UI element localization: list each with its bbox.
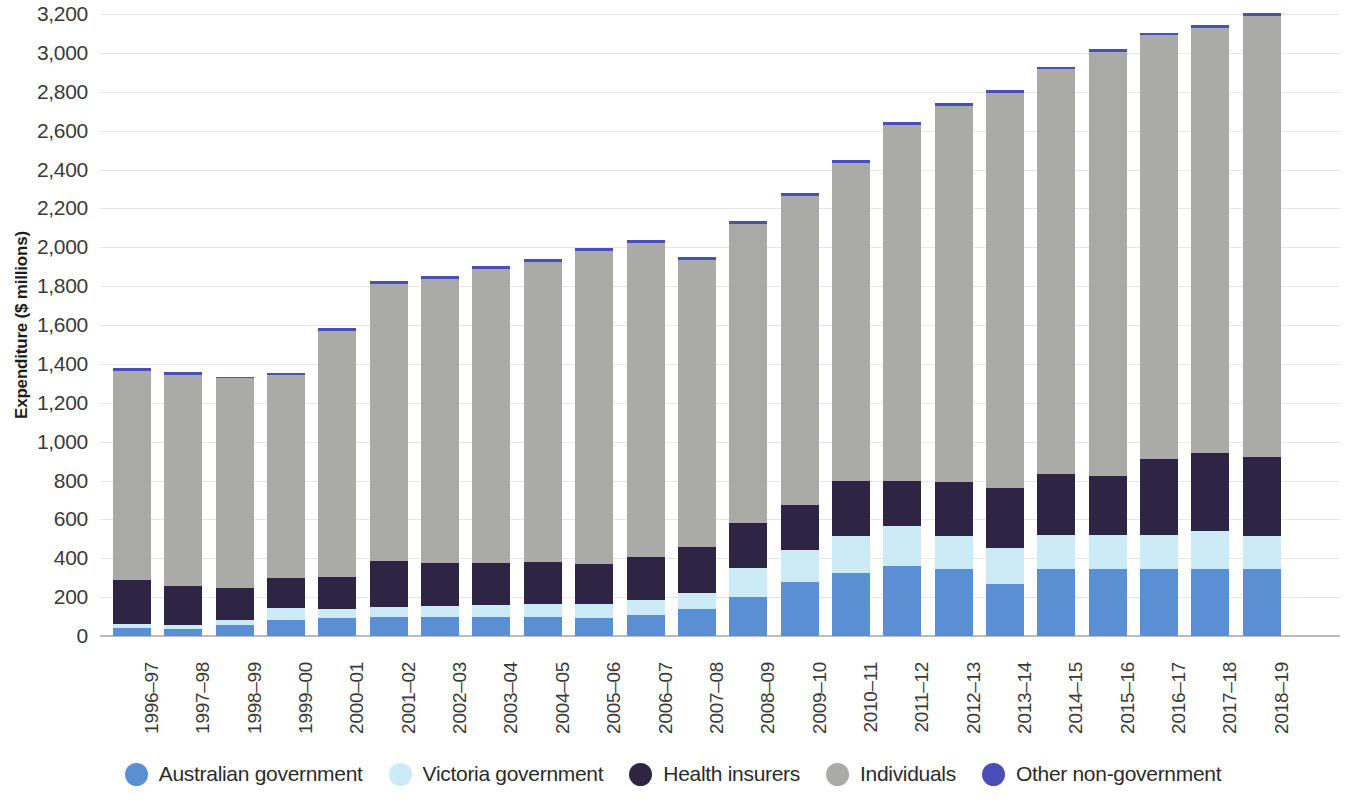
bar[interactable] — [935, 103, 973, 636]
bar-segment[interactable] — [267, 620, 305, 636]
bar-segment[interactable] — [524, 617, 562, 636]
bar-segment[interactable] — [1037, 474, 1075, 535]
bar-segment[interactable] — [318, 577, 356, 609]
bar-segment[interactable] — [729, 523, 767, 568]
bar-segment[interactable] — [318, 331, 356, 577]
bar-segment[interactable] — [1243, 536, 1281, 569]
bar-segment[interactable] — [1243, 457, 1281, 536]
bar[interactable] — [216, 377, 254, 636]
bar-segment[interactable] — [1140, 459, 1178, 535]
bar-segment[interactable] — [113, 628, 151, 636]
bar-segment[interactable] — [164, 629, 202, 636]
bar-segment[interactable] — [627, 243, 665, 557]
bar-segment[interactable] — [729, 224, 767, 523]
bar-segment[interactable] — [1089, 569, 1127, 636]
bar-segment[interactable] — [216, 625, 254, 636]
bar-segment[interactable] — [575, 564, 613, 604]
bar-segment[interactable] — [472, 563, 510, 605]
bar-segment[interactable] — [935, 106, 973, 481]
bar-segment[interactable] — [421, 563, 459, 606]
bar-segment[interactable] — [1089, 476, 1127, 535]
bar-segment[interactable] — [883, 566, 921, 636]
bar-segment[interactable] — [216, 378, 254, 588]
bar-segment[interactable] — [1089, 535, 1127, 569]
bar-segment[interactable] — [883, 125, 921, 482]
legend-item[interactable]: Individuals — [826, 762, 956, 786]
bar-segment[interactable] — [421, 617, 459, 636]
bar-segment[interactable] — [524, 262, 562, 562]
bar-segment[interactable] — [472, 269, 510, 563]
bar-segment[interactable] — [267, 578, 305, 608]
legend-item[interactable]: Victoria government — [389, 762, 604, 786]
bar-segment[interactable] — [781, 505, 819, 551]
bar[interactable] — [370, 281, 408, 636]
bar-segment[interactable] — [1191, 453, 1229, 531]
bar-segment[interactable] — [1191, 28, 1229, 454]
bar-segment[interactable] — [729, 568, 767, 597]
bar[interactable] — [986, 90, 1024, 636]
bar-segment[interactable] — [1089, 52, 1127, 476]
bar-segment[interactable] — [113, 580, 151, 625]
bar-segment[interactable] — [370, 607, 408, 617]
bar-segment[interactable] — [216, 588, 254, 620]
bar-segment[interactable] — [575, 604, 613, 618]
bar-segment[interactable] — [164, 586, 202, 625]
bar-segment[interactable] — [164, 375, 202, 587]
bar-segment[interactable] — [267, 608, 305, 621]
bar-segment[interactable] — [935, 482, 973, 536]
bar-segment[interactable] — [318, 618, 356, 636]
bar-segment[interactable] — [524, 604, 562, 617]
bar-segment[interactable] — [113, 371, 151, 580]
bar[interactable] — [164, 372, 202, 636]
bar-segment[interactable] — [1140, 35, 1178, 459]
bar-segment[interactable] — [421, 279, 459, 563]
bar-segment[interactable] — [267, 375, 305, 578]
bar-segment[interactable] — [986, 584, 1024, 636]
bar-segment[interactable] — [627, 600, 665, 615]
bar[interactable] — [1243, 13, 1281, 636]
bar-segment[interactable] — [1140, 569, 1178, 636]
bar-segment[interactable] — [781, 196, 819, 505]
bar-segment[interactable] — [781, 582, 819, 636]
bar-segment[interactable] — [678, 260, 716, 547]
bar[interactable] — [267, 373, 305, 636]
bar-segment[interactable] — [1037, 569, 1075, 636]
bar-segment[interactable] — [832, 163, 870, 482]
bar[interactable] — [678, 257, 716, 636]
bar[interactable] — [1037, 67, 1075, 636]
bar-segment[interactable] — [729, 597, 767, 636]
bar-segment[interactable] — [678, 547, 716, 594]
bar[interactable] — [729, 221, 767, 636]
bar-segment[interactable] — [472, 605, 510, 617]
bar-segment[interactable] — [370, 284, 408, 561]
bar-segment[interactable] — [1191, 569, 1229, 636]
bar-segment[interactable] — [1243, 16, 1281, 457]
bar[interactable] — [524, 259, 562, 636]
bar[interactable] — [318, 328, 356, 636]
bar-segment[interactable] — [935, 569, 973, 636]
bar[interactable] — [627, 240, 665, 636]
legend-item[interactable]: Health insurers — [629, 762, 800, 786]
bar[interactable] — [575, 248, 613, 636]
bar[interactable] — [781, 193, 819, 636]
bar-segment[interactable] — [1191, 531, 1229, 569]
bar[interactable] — [883, 122, 921, 636]
bar-segment[interactable] — [1037, 535, 1075, 569]
bar-segment[interactable] — [832, 536, 870, 573]
bar-segment[interactable] — [1243, 569, 1281, 636]
bar-segment[interactable] — [935, 536, 973, 569]
bar[interactable] — [113, 368, 151, 636]
bar-segment[interactable] — [524, 562, 562, 604]
bar-segment[interactable] — [627, 557, 665, 600]
legend-item[interactable]: Australian government — [125, 762, 363, 786]
bar-segment[interactable] — [678, 593, 716, 609]
bar-segment[interactable] — [832, 481, 870, 535]
bar-segment[interactable] — [986, 488, 1024, 547]
bar-segment[interactable] — [421, 606, 459, 617]
bar[interactable] — [832, 160, 870, 636]
bar-segment[interactable] — [575, 618, 613, 636]
bar-segment[interactable] — [1037, 69, 1075, 473]
bar-segment[interactable] — [781, 550, 819, 581]
bar-segment[interactable] — [370, 617, 408, 636]
bar-segment[interactable] — [318, 609, 356, 618]
